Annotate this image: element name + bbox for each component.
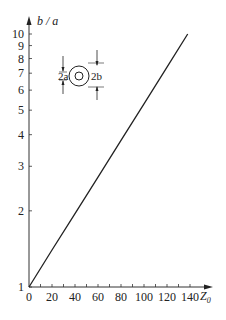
x-tick-label: 80: [115, 290, 127, 304]
coax-inset-diagram: 2a 2b: [58, 50, 104, 100]
y-tick-label: 7: [18, 66, 24, 80]
x-tick-label: 120: [158, 290, 176, 304]
arrow-down-icon: [96, 61, 99, 66]
y-tick-label: 2: [18, 204, 24, 218]
data-line: [29, 34, 188, 287]
y-tick-label: 3: [18, 159, 24, 173]
x-tick-label: 60: [92, 290, 104, 304]
x-axis-label: Z0: [200, 289, 211, 305]
x-tick-label: 100: [135, 290, 153, 304]
x-tick-label: 140: [181, 290, 199, 304]
y-tick-label: 10: [12, 27, 24, 41]
x-tick-label: 40: [69, 290, 81, 304]
y-tick-label: 8: [18, 52, 24, 66]
y-tick-label: 4: [18, 128, 24, 142]
inner-diameter-label: 2a: [58, 70, 69, 82]
outer-diameter-label: 2b: [91, 70, 103, 82]
y-tick-label: 5: [18, 103, 24, 117]
y-axis-label: b / a: [37, 14, 58, 28]
chart: 12345678910 020406080100120140 b / a Z0 …: [0, 0, 226, 320]
inner-conductor-icon: [75, 72, 83, 80]
x-tick-label: 20: [46, 290, 58, 304]
outer-conductor-icon: [69, 66, 89, 86]
x-tick-label: 0: [26, 290, 32, 304]
y-axis-arrow-icon: [27, 16, 32, 25]
y-tick-label: 6: [18, 83, 24, 97]
y-tick-label: 1: [18, 280, 24, 294]
